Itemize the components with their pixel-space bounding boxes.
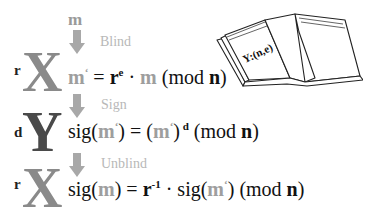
eq-term: )	[252, 120, 259, 142]
step-label-sign: Sign	[101, 97, 127, 113]
actor-x: X	[22, 44, 62, 100]
eq-term: (mod	[157, 66, 209, 88]
arrow-down-icon	[69, 153, 85, 177]
eq-term: =	[88, 66, 109, 88]
eq-term: m	[153, 120, 170, 142]
eq-term: sig(	[68, 178, 98, 200]
actor-y: Y	[22, 104, 62, 160]
eq-term: n	[241, 120, 252, 142]
step-label-blind: Blind	[100, 34, 131, 50]
eq-term: m	[68, 66, 85, 88]
eq-term: =	[121, 178, 142, 200]
eq-term: sig(	[177, 178, 207, 200]
actor-prefix-r: r	[14, 176, 21, 193]
eq-term: )	[118, 120, 125, 142]
blind-equation: m‘ = re · m (mod n)	[68, 66, 227, 89]
eq-term: = (	[125, 120, 153, 142]
input-message: m	[68, 10, 82, 30]
eq-term: r	[110, 66, 119, 88]
eq-term: ·	[161, 178, 178, 200]
eq-term: m	[98, 178, 115, 200]
eq-term: r	[143, 178, 152, 200]
arrow-down-icon	[69, 94, 85, 118]
eq-term: )	[298, 178, 305, 200]
eq-term: sig(	[68, 120, 98, 142]
sign-equation: sig(m‘) = (m‘) d (mod n)	[68, 120, 259, 143]
unblind-equation: sig(m) = r-1 · sig(m‘) (mod n)	[68, 178, 304, 201]
actor-x: X	[22, 160, 62, 216]
step-label-unblind: Unblind	[101, 156, 147, 172]
eq-term: n	[287, 178, 298, 200]
eq-term: d	[180, 120, 189, 132]
eq-term: -1	[152, 178, 161, 190]
eq-term: m	[207, 178, 224, 200]
actor-prefix-r: r	[14, 62, 21, 79]
eq-term: )	[173, 120, 180, 142]
open-book-icon: Y:(n,e)	[215, 12, 363, 88]
eq-term: (mod	[234, 178, 286, 200]
eq-term: ·	[123, 66, 140, 88]
arrow-down-icon	[69, 30, 85, 54]
eq-term: m	[98, 120, 115, 142]
eq-term: m	[140, 66, 157, 88]
eq-term: (mod	[189, 120, 241, 142]
